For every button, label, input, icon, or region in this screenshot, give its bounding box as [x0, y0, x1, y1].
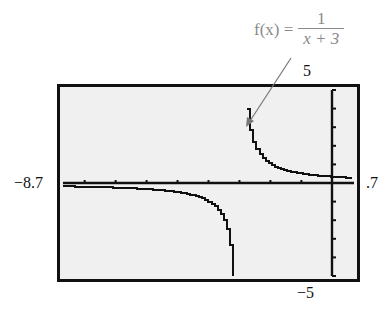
calculator-graph-screen	[57, 84, 360, 282]
fraction-denominator: x + 3	[303, 29, 339, 49]
xmax-label: .7	[366, 174, 378, 192]
fraction-numerator: 1	[315, 10, 328, 28]
fraction: 1 x + 3	[298, 10, 344, 49]
xmin-label: −8.7	[14, 174, 43, 192]
function-lhs: f(x) =	[254, 20, 293, 40]
ymin-label: −5	[297, 284, 314, 302]
graph-plot	[57, 84, 360, 282]
function-annotation: f(x) = 1 x + 3	[254, 10, 344, 49]
ymax-label: 5	[303, 62, 311, 80]
